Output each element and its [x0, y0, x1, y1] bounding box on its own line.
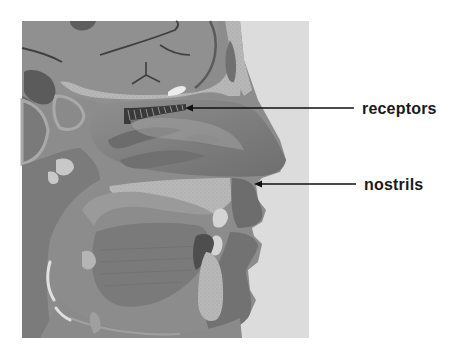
label-nostrils: nostrils: [364, 177, 423, 193]
label-receptors: receptors: [362, 101, 437, 117]
